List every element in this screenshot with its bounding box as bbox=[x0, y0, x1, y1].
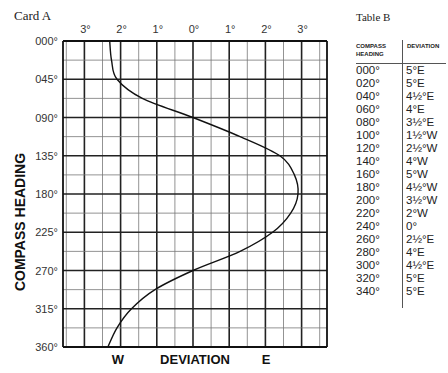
x-tick-label: 3° bbox=[297, 23, 308, 35]
row-deviation: 1½°W bbox=[402, 129, 437, 142]
row-deviation: 3½°W bbox=[402, 194, 437, 207]
row-heading: 280° bbox=[356, 246, 402, 259]
table-row: 100°1½°W bbox=[356, 129, 446, 142]
y-axis-ticks: 000°045°090°135°180°225°270°315°360° bbox=[35, 35, 58, 353]
x-tick-label: 3° bbox=[80, 23, 91, 35]
table-row: 120°2½°W bbox=[356, 142, 446, 155]
table-row: 260°2½°E bbox=[356, 233, 446, 246]
y-tick-label: 090° bbox=[35, 112, 58, 124]
row-heading: 180° bbox=[356, 181, 402, 194]
x-axis-ticks: 3°2°1°0°1°2°3° bbox=[80, 23, 308, 35]
row-heading: 340° bbox=[356, 285, 402, 298]
x-tick-label: 0° bbox=[189, 23, 200, 35]
table-row: 020°5°E bbox=[356, 77, 446, 90]
row-heading: 160° bbox=[356, 168, 402, 181]
row-heading: 020° bbox=[356, 77, 402, 90]
row-heading: 080° bbox=[356, 116, 402, 129]
row-heading: 060° bbox=[356, 103, 402, 116]
row-deviation: 5°E bbox=[402, 64, 425, 77]
row-heading: 040° bbox=[356, 90, 402, 103]
table-header: COMPASS HEADING DEVIATION bbox=[356, 40, 446, 64]
y-tick-label: 360° bbox=[35, 341, 58, 353]
table-row: 160°5°W bbox=[356, 168, 446, 181]
row-deviation: 4°W bbox=[402, 155, 428, 168]
row-deviation: 5°W bbox=[402, 168, 428, 181]
row-deviation: 4½°E bbox=[402, 259, 434, 272]
row-deviation: 2°W bbox=[402, 207, 428, 220]
x-tick-label: 1° bbox=[225, 23, 236, 35]
table-row: 340°5°E bbox=[356, 285, 446, 298]
row-deviation: 2½°W bbox=[402, 142, 437, 155]
table-row: 180°4½°W bbox=[356, 181, 446, 194]
row-deviation: 5°E bbox=[402, 272, 425, 285]
table-row: 280°4°E bbox=[356, 246, 446, 259]
y-tick-label: 315° bbox=[35, 303, 58, 315]
deviation-card-chart: 3°2°1°0°1°2°3° 000°045°090°135°180°225°2… bbox=[0, 0, 340, 373]
table-row: 220°2°W bbox=[356, 207, 446, 220]
table-row: 000°5°E bbox=[356, 64, 446, 77]
row-deviation: 5°E bbox=[402, 285, 425, 298]
header-compass-heading: COMPASS HEADING bbox=[356, 40, 403, 63]
row-deviation: 4°E bbox=[402, 103, 425, 116]
table-row: 040°4½°E bbox=[356, 90, 446, 103]
row-heading: 260° bbox=[356, 233, 402, 246]
y-axis-title: COMPASS HEADING bbox=[12, 153, 28, 291]
y-tick-label: 000° bbox=[35, 35, 58, 47]
row-heading: 000° bbox=[356, 64, 402, 77]
table-title: Table B bbox=[356, 11, 390, 23]
x-axis-west-label: W bbox=[112, 352, 125, 367]
row-deviation: 2½°E bbox=[402, 233, 434, 246]
chart-grid bbox=[63, 41, 327, 347]
row-heading: 200° bbox=[356, 194, 402, 207]
y-tick-label: 180° bbox=[35, 188, 58, 200]
row-deviation: 4½°E bbox=[402, 90, 434, 103]
x-axis-east-label: E bbox=[262, 352, 271, 367]
y-tick-label: 135° bbox=[35, 150, 58, 162]
deviation-table: COMPASS HEADING DEVIATION 000°5°E020°5°E… bbox=[356, 40, 446, 298]
row-deviation: 0° bbox=[402, 220, 417, 233]
header-deviation: DEVIATION bbox=[403, 40, 439, 63]
x-tick-label: 1° bbox=[153, 23, 164, 35]
row-heading: 300° bbox=[356, 259, 402, 272]
x-axis-title: DEVIATION bbox=[160, 352, 230, 367]
x-tick-label: 2° bbox=[261, 23, 272, 35]
row-heading: 220° bbox=[356, 207, 402, 220]
y-tick-label: 045° bbox=[35, 73, 58, 85]
table-row: 140°4°W bbox=[356, 155, 446, 168]
row-heading: 100° bbox=[356, 129, 402, 142]
row-deviation: 3½°E bbox=[402, 116, 434, 129]
row-deviation: 4°E bbox=[402, 246, 425, 259]
y-tick-label: 225° bbox=[35, 226, 58, 238]
table-row: 300°4½°E bbox=[356, 259, 446, 272]
row-deviation: 5°E bbox=[402, 77, 425, 90]
table-row: 240°0° bbox=[356, 220, 446, 233]
table-row: 080°3½°E bbox=[356, 116, 446, 129]
table-body: 000°5°E020°5°E040°4½°E060°4°E080°3½°E100… bbox=[356, 64, 446, 298]
row-heading: 240° bbox=[356, 220, 402, 233]
row-heading: 320° bbox=[356, 272, 402, 285]
table-row: 320°5°E bbox=[356, 272, 446, 285]
table-row: 060°4°E bbox=[356, 103, 446, 116]
x-tick-label: 2° bbox=[116, 23, 127, 35]
table-row: 200°3½°W bbox=[356, 194, 446, 207]
row-heading: 140° bbox=[356, 155, 402, 168]
row-deviation: 4½°W bbox=[402, 181, 437, 194]
row-heading: 120° bbox=[356, 142, 402, 155]
y-tick-label: 270° bbox=[35, 265, 58, 277]
